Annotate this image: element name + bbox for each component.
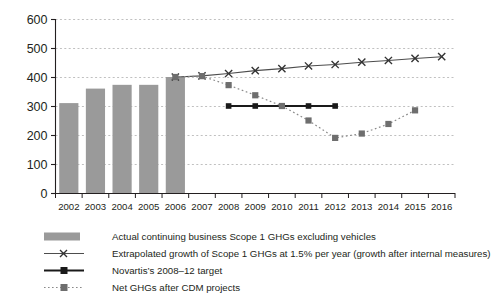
data-point-marker bbox=[359, 130, 365, 136]
data-point-marker bbox=[252, 103, 258, 109]
line-series-group bbox=[172, 53, 446, 141]
data-point-marker bbox=[226, 103, 232, 109]
data-point-marker bbox=[305, 117, 311, 123]
bar bbox=[112, 85, 131, 193]
legend-item-target: Novartis’s 2008–12 target bbox=[0, 262, 464, 279]
series-line bbox=[175, 76, 415, 138]
y-tick-label: 600 bbox=[27, 13, 48, 27]
data-point-marker bbox=[385, 121, 391, 127]
data-point-marker bbox=[252, 92, 258, 98]
line-square-marker-icon bbox=[44, 262, 90, 279]
x-tick-label: 2007 bbox=[191, 201, 212, 212]
x-tick-label: 2005 bbox=[138, 201, 159, 212]
legend-label-extrapolated: Extrapolated growth of Scope 1 GHGs at 1… bbox=[112, 245, 491, 262]
data-point-marker bbox=[172, 74, 178, 80]
chart-legend: Actual continuing business Scope 1 GHGs … bbox=[0, 228, 464, 308]
data-point-marker bbox=[279, 103, 285, 109]
data-point-marker bbox=[332, 103, 338, 109]
x-tick-label: 2011 bbox=[298, 201, 319, 212]
dotted-line-square-marker-icon bbox=[44, 279, 90, 296]
data-point-marker bbox=[226, 82, 232, 88]
x-tick-label: 2008 bbox=[218, 201, 239, 212]
bar bbox=[86, 89, 105, 193]
bar-series bbox=[59, 77, 185, 193]
x-tick-label: 2010 bbox=[271, 201, 292, 212]
x-tick-label: 2002 bbox=[58, 201, 79, 212]
data-point-marker bbox=[306, 103, 312, 109]
bar bbox=[166, 77, 185, 193]
x-tick-label: 2003 bbox=[85, 201, 106, 212]
y-tick-label: 200 bbox=[27, 129, 48, 143]
x-tick-label: 2004 bbox=[111, 201, 133, 212]
chart-canvas: 0100200300400500600 20022003200420052006… bbox=[0, 0, 464, 215]
bar bbox=[59, 103, 78, 193]
legend-label-target: Novartis’s 2008–12 target bbox=[112, 262, 222, 279]
bar-swatch-icon bbox=[44, 228, 90, 245]
y-tick-label: 500 bbox=[27, 42, 48, 56]
x-tick-label: 2013 bbox=[351, 201, 372, 212]
x-tick-label: 2014 bbox=[378, 201, 400, 212]
x-tick-label: 2009 bbox=[245, 201, 266, 212]
x-tick-label: 2006 bbox=[165, 201, 186, 212]
y-tick-marks bbox=[51, 20, 56, 194]
legend-item-actual: Actual continuing business Scope 1 GHGs … bbox=[0, 228, 464, 245]
x-tick-label: 2015 bbox=[404, 201, 425, 212]
y-tick-label: 100 bbox=[27, 158, 48, 172]
x-tick-labels: 2002200320042005200620072008200920102011… bbox=[58, 201, 452, 212]
legend-label-netghg: Net GHGs after CDM projects bbox=[112, 279, 240, 296]
y-tick-label: 0 bbox=[41, 187, 48, 201]
y-tick-label: 300 bbox=[27, 100, 48, 114]
legend-label-actual: Actual continuing business Scope 1 GHGs … bbox=[112, 228, 376, 245]
data-point-marker bbox=[332, 135, 338, 141]
x-tick-label: 2016 bbox=[431, 201, 452, 212]
plot-area: 0100200300400500600 20022003200420052006… bbox=[0, 0, 464, 215]
legend-item-extrapolated: Extrapolated growth of Scope 1 GHGs at 1… bbox=[0, 245, 464, 262]
y-tick-labels: 0100200300400500600 bbox=[27, 13, 48, 201]
bar bbox=[139, 85, 158, 193]
y-tick-label: 400 bbox=[27, 71, 48, 85]
x-tick-label: 2012 bbox=[324, 201, 345, 212]
data-point-marker bbox=[412, 107, 418, 113]
data-point-marker bbox=[199, 73, 205, 79]
legend-item-netghg: Net GHGs after CDM projects bbox=[0, 279, 464, 296]
line-x-marker-icon bbox=[44, 245, 90, 262]
